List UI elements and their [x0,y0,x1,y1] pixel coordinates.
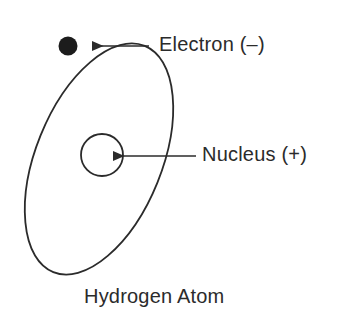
hydrogen-atom-diagram: Electron (–) Nucleus (+) Hydrogen Atom [0,0,346,326]
electron-dot [59,37,78,56]
electron-label: Electron (–) [159,33,265,56]
nucleus-circle [81,134,123,176]
diagram-caption: Hydrogen Atom [84,285,224,308]
nucleus-label: Nucleus (+) [202,143,307,166]
